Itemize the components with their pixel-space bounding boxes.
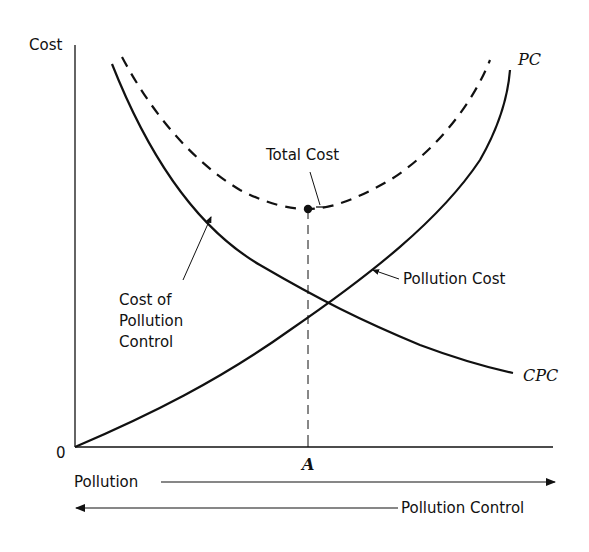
pollution-cost-label: Pollution Cost xyxy=(403,272,505,287)
total-cost-minimum-dot xyxy=(304,205,312,213)
cpc-end-label: CPC xyxy=(523,368,558,384)
pc-end-label: PC xyxy=(518,52,541,68)
cpc-pointer xyxy=(183,217,211,280)
cost-of-pollution-control-label: Cost of Pollution Control xyxy=(119,290,183,353)
cpc-label-line-2: Pollution xyxy=(119,311,183,332)
pc-pointer xyxy=(373,270,399,279)
origin-label: 0 xyxy=(56,446,66,461)
pollution-control-direction-label: Pollution Control xyxy=(401,501,524,516)
total-cost-label: Total Cost xyxy=(266,148,339,163)
cpc-label-line-1: Cost of xyxy=(119,290,183,311)
total-cost-pointer xyxy=(310,172,320,205)
pollution-direction-label: Pollution xyxy=(74,475,138,490)
cpc-label-line-3: Control xyxy=(119,332,183,353)
y-axis-label: Cost xyxy=(29,38,62,53)
a-marker-label: A xyxy=(302,457,314,473)
